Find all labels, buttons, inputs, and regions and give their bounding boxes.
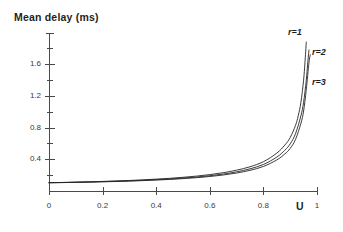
x-tick-label: 0.4	[141, 201, 171, 210]
curve-r1	[49, 42, 306, 183]
curve-r2	[49, 50, 309, 183]
axes	[45, 33, 318, 195]
curve-r3	[49, 55, 310, 183]
x-tick-label: 0.8	[248, 201, 278, 210]
x-tick-label: 0.2	[88, 201, 118, 210]
y-tick-label: 0.8	[9, 123, 41, 132]
x-tick-label: 0.6	[195, 201, 225, 210]
data-curves	[49, 42, 310, 183]
series-label-r3: r=3	[312, 77, 326, 87]
x-tick-label: 0	[34, 201, 64, 210]
y-tick-label: 0.4	[9, 154, 41, 163]
series-label-r1: r=1	[288, 27, 302, 37]
series-label-r2: r=2	[312, 47, 326, 57]
chart-figure: Mean delay (ms) U 0.40.81.21.6 00.20.40.…	[0, 0, 343, 232]
y-tick-label: 1.6	[9, 59, 41, 68]
x-tick-label: 1	[302, 201, 332, 210]
y-tick-label: 1.2	[9, 91, 41, 100]
